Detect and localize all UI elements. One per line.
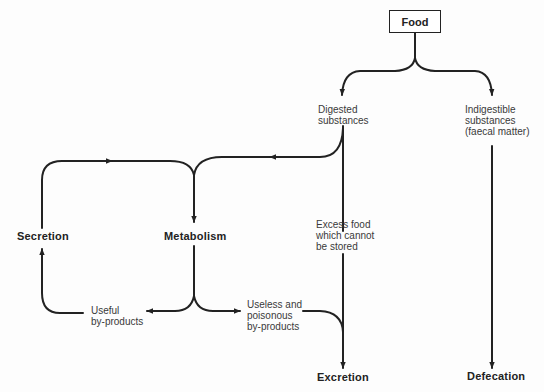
food-to-digested-arrow xyxy=(342,58,415,95)
digested-to-metabolism-line xyxy=(194,128,343,175)
useful-byproducts-label: Useful by-products xyxy=(91,305,143,327)
metabolism-node: Metabolism xyxy=(164,230,227,242)
useful-to-secretion-arrow xyxy=(42,249,83,313)
defecation-node: Defecation xyxy=(467,370,525,382)
metabolism-to-useful-arrow xyxy=(147,296,194,311)
useless-byproducts-label: Useless and poisonous by-products xyxy=(247,299,302,332)
digested-substances-label: Digested substances xyxy=(318,104,369,126)
food-fate-diagram: Food Digested substances Indigestible su… xyxy=(0,0,544,392)
indigestible-substances-label: Indigestible substances (faecal matter) xyxy=(465,104,529,137)
secretion-to-metabolism-line xyxy=(42,161,194,228)
excess-food-label: Excess food which cannot be stored xyxy=(316,219,374,252)
excretion-node: Excretion xyxy=(317,371,369,383)
metabolism-to-useless-arrow xyxy=(194,296,240,311)
secretion-node: Secretion xyxy=(17,230,69,242)
food-to-indigestible-arrow xyxy=(415,58,492,95)
connector-lines xyxy=(0,0,544,392)
useless-to-excretion-line xyxy=(303,311,343,332)
food-node: Food xyxy=(389,10,441,33)
